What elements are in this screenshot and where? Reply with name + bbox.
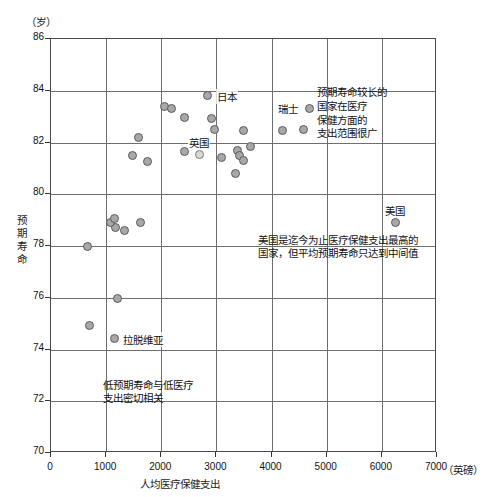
x-tick-mark-4000 (271, 452, 272, 457)
data-point (299, 125, 308, 134)
point-label-美国: 美国 (384, 203, 406, 218)
point-label-瑞士: 瑞士 (277, 101, 299, 116)
data-point (83, 242, 92, 251)
plot-area: 拉脱维亚日本英国瑞士美国 预期寿命较长的 国家在医疗 保健方面的 支出范围很广美… (50, 38, 436, 452)
y-tick-mark-80 (45, 193, 50, 194)
data-point-日本 (203, 91, 212, 100)
x-tick-label-0: 0 (28, 461, 72, 472)
data-point (217, 153, 226, 162)
data-point (231, 169, 240, 178)
point-label-日本: 日本 (216, 89, 238, 104)
y-tick-mark-84 (45, 90, 50, 91)
annot-low-spend: 低预期寿命与低医疗 支出密切相关 (103, 379, 193, 406)
data-point (278, 126, 287, 135)
data-point (246, 142, 255, 151)
x-tick-label-6000: 6000 (359, 461, 403, 472)
annot-usa: 美国是迄今为止医疗保健支出最高的 国家，但平均预期寿命只达到中间值 (258, 234, 418, 261)
y-tick-mark-76 (45, 297, 50, 298)
x-tick-label-1000: 1000 (83, 461, 127, 472)
y-tick-label-72: 72 (18, 393, 44, 404)
point-label-拉脱维亚: 拉脱维亚 (122, 332, 164, 347)
data-point (210, 125, 219, 134)
data-point (239, 126, 248, 135)
x-tick-label-5000: 5000 (304, 461, 348, 472)
data-point (134, 133, 143, 142)
y-tick-mark-78 (45, 245, 50, 246)
x-tick-mark-0 (50, 452, 51, 457)
gridline-y-82 (51, 143, 435, 144)
x-tick-mark-3000 (215, 452, 216, 457)
data-point (110, 214, 119, 223)
y-tick-label-76: 76 (18, 290, 44, 301)
x-tick-mark-1000 (105, 452, 106, 457)
y-tick-mark-86 (45, 38, 50, 39)
y-tick-label-86: 86 (18, 31, 44, 42)
gridline-y-80 (51, 194, 435, 195)
data-point (207, 114, 216, 123)
annot-high-spend-range: 预期寿命较长的 国家在医疗 保健方面的 支出范围很广 (317, 86, 387, 140)
y-tick-label-74: 74 (18, 342, 44, 353)
x-tick-mark-6000 (381, 452, 382, 457)
point-label-英国: 英国 (188, 135, 210, 150)
x-tick-label-3000: 3000 (193, 461, 237, 472)
gridline-y-74 (51, 350, 435, 351)
y-tick-label-80: 80 (18, 186, 44, 197)
y-axis-unit: （岁） (26, 14, 56, 29)
y-tick-mark-82 (45, 142, 50, 143)
y-tick-label-84: 84 (18, 83, 44, 94)
data-point (113, 294, 122, 303)
data-point-瑞士 (305, 104, 314, 113)
x-axis-title: 人均医疗保健支出 (140, 476, 220, 491)
data-point (239, 156, 248, 165)
data-point (167, 104, 176, 113)
x-tick-label-4000: 4000 (249, 461, 293, 472)
x-tick-mark-7000 (436, 452, 437, 457)
y-tick-mark-74 (45, 349, 50, 350)
data-point (143, 157, 152, 166)
scatter-chart: （岁） 预期寿命 拉脱维亚日本英国瑞士美国 预期寿命较长的 国家在医疗 保健方面… (0, 0, 495, 497)
y-tick-label-82: 82 (18, 135, 44, 146)
data-point-英国 (195, 150, 204, 159)
gridline-y-76 (51, 298, 435, 299)
y-tick-label-78: 78 (18, 238, 44, 249)
x-tick-mark-2000 (160, 452, 161, 457)
y-tick-label-70: 70 (18, 445, 44, 456)
x-tick-mark-5000 (326, 452, 327, 457)
data-point (85, 321, 94, 330)
data-point (120, 226, 129, 235)
data-point (136, 218, 145, 227)
x-tick-label-2000: 2000 (138, 461, 182, 472)
data-point-拉脱维亚 (110, 334, 119, 343)
x-axis-unit: （英磅） (443, 462, 483, 477)
data-point-美国 (391, 218, 400, 227)
y-tick-mark-72 (45, 400, 50, 401)
data-point (128, 151, 137, 160)
data-point (180, 113, 189, 122)
